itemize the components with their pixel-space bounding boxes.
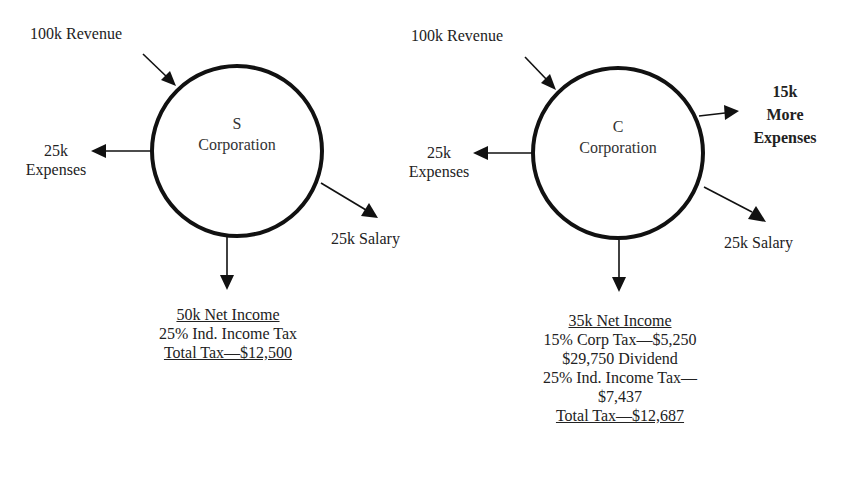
s-ind-tax: 25% Ind. Income Tax: [128, 324, 328, 343]
c-more-expenses-amount: 15k: [740, 80, 830, 103]
s-expenses-text: Expenses: [20, 160, 92, 179]
s-salary-arrow: [321, 183, 378, 218]
c-more-expenses-line1: More: [740, 103, 830, 126]
c-expenses-arrow: [473, 146, 533, 160]
c-corp-name: Corporation: [568, 137, 668, 158]
s-corp-name: Corporation: [187, 134, 287, 155]
s-summary: 50k Net Income 25% Ind. Income Tax Total…: [128, 305, 328, 362]
c-ind-tax-line1: 25% Ind. Income Tax—: [510, 368, 730, 387]
s-corp-diagram: [91, 54, 378, 290]
c-more-expenses-arrow: [699, 105, 739, 120]
s-expenses-label: 25k Expenses: [20, 141, 92, 179]
c-corp-tax: 15% Corp Tax—$5,250: [510, 330, 730, 349]
c-ind-tax-line2: $7,437: [510, 387, 730, 406]
c-corp-diagram: [473, 57, 766, 292]
c-corp-letter: C: [568, 116, 668, 137]
c-dividend: $29,750 Dividend: [510, 349, 730, 368]
c-corp-title: C Corporation: [568, 116, 668, 158]
c-revenue-label: 100k Revenue: [411, 26, 503, 45]
s-net-income: 50k Net Income: [128, 305, 328, 324]
c-salary-label: 25k Salary: [724, 233, 793, 252]
s-corp-title: S Corporation: [187, 113, 287, 155]
s-total-tax: Total Tax—$12,500: [128, 343, 328, 362]
c-more-expenses-line2: Expenses: [740, 126, 830, 149]
c-salary-arrow: [704, 187, 766, 222]
c-expenses-amount: 25k: [403, 143, 475, 162]
c-expenses-text: Expenses: [403, 162, 475, 181]
c-more-expenses-label: 15k More Expenses: [740, 80, 830, 149]
c-net-income: 35k Net Income: [510, 311, 730, 330]
s-net-income-arrow: [220, 236, 234, 290]
c-summary: 35k Net Income 15% Corp Tax—$5,250 $29,7…: [510, 311, 730, 425]
c-expenses-label: 25k Expenses: [403, 143, 475, 181]
s-salary-label: 25k Salary: [331, 229, 400, 248]
s-expenses-arrow: [91, 144, 152, 158]
c-total-tax: Total Tax—$12,687: [510, 406, 730, 425]
s-revenue-arrow: [143, 54, 176, 86]
c-net-income-arrow: [612, 240, 626, 292]
s-expenses-amount: 25k: [20, 141, 92, 160]
s-revenue-label: 100k Revenue: [30, 24, 122, 43]
c-revenue-arrow: [525, 57, 556, 90]
s-corp-letter: S: [187, 113, 287, 134]
